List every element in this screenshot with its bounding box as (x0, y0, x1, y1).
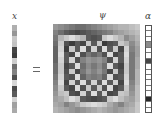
x-vector-cell (12, 108, 17, 114)
x-vector (12, 25, 17, 113)
psi-matrix (53, 24, 140, 113)
alpha-vector-cell (146, 108, 151, 112)
x-label: x (12, 12, 17, 21)
alpha-vector (145, 25, 152, 113)
psi-matrix-cell (135, 107, 140, 113)
alpha-label: α (145, 12, 151, 21)
equals-sign (33, 67, 40, 73)
psi-label: ψ (99, 11, 106, 20)
